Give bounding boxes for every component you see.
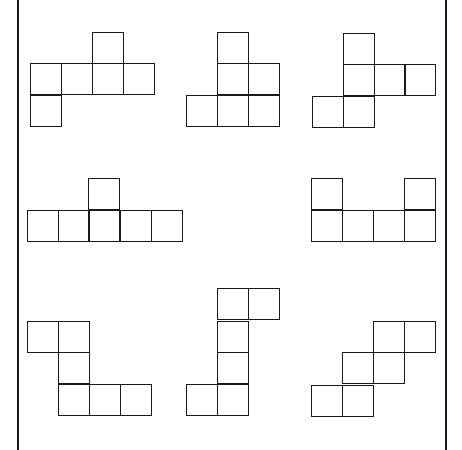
net-square	[342, 385, 374, 417]
net-square	[342, 352, 374, 384]
net-square	[404, 321, 436, 353]
cube-net-8	[0, 0, 462, 450]
net-square	[373, 321, 405, 353]
net-square	[373, 352, 405, 384]
net-square	[311, 385, 343, 417]
